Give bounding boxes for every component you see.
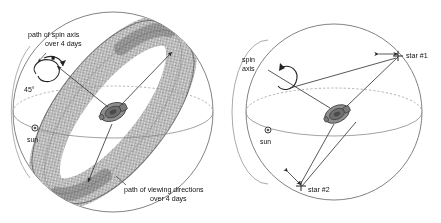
ray-scan-to-star-1 [290,58,396,88]
spin-axis-precession-loop [34,56,63,81]
star-2-label: star #2 [308,186,330,194]
right-sun-marker [265,127,271,133]
viewing-caption-line2: over 4 days [150,195,187,203]
right-sun-label: sun [260,138,271,145]
spin-axis-label-line2: axis [242,65,255,73]
star-2-scan-arrow [288,172,301,185]
angle-label: 45° [24,86,35,93]
left-spacecraft-icon [96,98,130,126]
left-sun-label: sun [27,136,38,143]
star-1-marker [393,51,403,61]
spin-axis-caption-line2: over 4 days [45,40,82,48]
ray-scan-to-star-2 [302,122,356,186]
right-panel: sun spin axis star #1 [232,21,428,204]
spin-axis-label-line1: spin [242,56,255,64]
right-spin-axis-ray [268,70,330,108]
figure-canvas: 45° sun path of spin axis over 4 days [0,0,441,223]
spin-axis-caption-line1: path of spin axis [28,31,80,39]
left-panel: 45° sun path of spin axis over 4 days [0,0,227,223]
viewing-caption-line1: path of viewing directions [124,186,204,194]
left-sun-marker [32,125,38,131]
left-meridian-arc [11,46,30,178]
star-1-label: star #1 [406,52,428,60]
spin-axis-tip-marker [52,57,55,60]
